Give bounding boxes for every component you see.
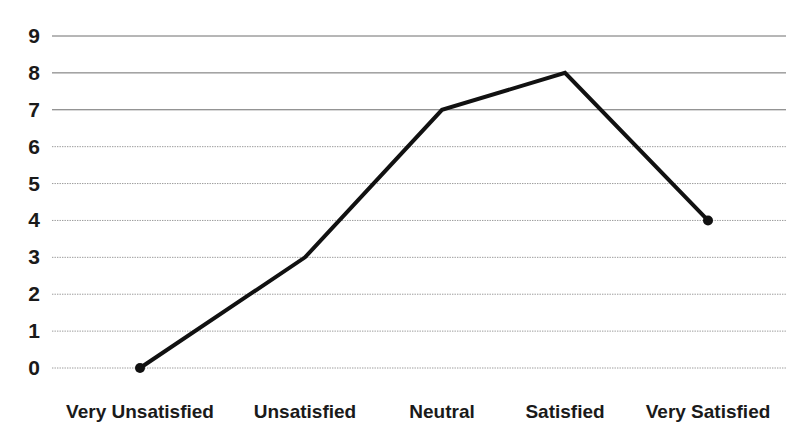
chart-plot-area [0,0,808,443]
y-axis-tick-label: 6 [14,136,40,157]
x-axis-tick-label: Unsatisfied [254,402,356,421]
y-axis-tick-label: 0 [14,357,40,378]
y-axis-tick-label: 7 [14,99,40,120]
x-axis-tick-label: Very Unsatisfied [66,402,214,421]
data-point-marker-group [135,215,713,373]
data-point-marker [703,215,713,225]
x-axis-tick-label: Very Satisfied [646,402,771,421]
data-point-marker [135,363,145,373]
x-axis-tick-label: Satisfied [525,402,604,421]
line-chart: 0123456789 Very UnsatisfiedUnsatisfiedNe… [0,0,808,443]
y-axis-tick-label: 9 [14,25,40,46]
y-axis-tick-label: 1 [14,320,40,341]
y-axis-tick-label: 4 [14,209,40,230]
y-axis-tick-label: 8 [14,62,40,83]
y-axis-tick-label: 5 [14,173,40,194]
gridline-group [52,36,786,368]
y-axis-tick-label: 3 [14,246,40,267]
x-axis-tick-label: Neutral [409,402,474,421]
y-axis-tick-label: 2 [14,283,40,304]
